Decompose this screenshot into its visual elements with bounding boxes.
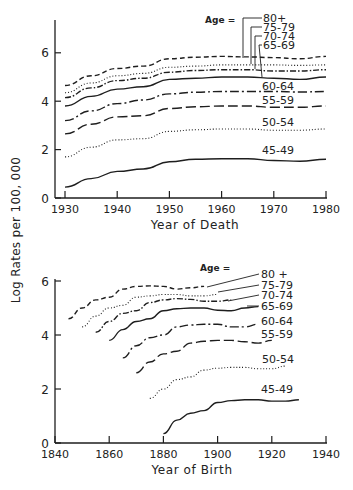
legend-title: Age = (205, 15, 235, 25)
y-tick-label: 4 (41, 95, 49, 109)
legend-title: Age = (200, 263, 230, 273)
x-tick-label: 1970 (260, 203, 288, 216)
y-tick-label: 4 (41, 329, 49, 343)
leader-line (259, 45, 262, 77)
x-axis-label: Year of Death (150, 218, 240, 232)
series-label: 60-64 (261, 315, 293, 328)
series-label: 45-49 (262, 144, 294, 157)
leader-line (218, 285, 259, 292)
series-label: 60-64 (262, 80, 294, 93)
series-label: 55-59 (261, 328, 293, 341)
series-line-45-49 (65, 159, 326, 187)
x-tick-label: 1880 (149, 448, 177, 461)
series-label: 50-54 (262, 353, 294, 366)
figure: 0246193019401950196019701980Year of Deat… (0, 0, 353, 490)
x-tick-label: 1930 (51, 203, 79, 216)
y-tick-label: 6 (41, 275, 49, 289)
series-label: 55-59 (262, 94, 294, 107)
y-tick-label: 6 (41, 46, 49, 60)
series-label: 65-69 (261, 300, 293, 313)
leader-line (243, 18, 262, 58)
x-tick-label: 1840 (41, 448, 69, 461)
x-tick-label: 1950 (155, 203, 183, 216)
leader-line (207, 274, 259, 287)
x-tick-label: 1960 (208, 203, 236, 216)
series-label: 45-49 (261, 383, 293, 396)
series-line-45-49 (163, 400, 299, 434)
x-tick-label: 1940 (312, 448, 340, 461)
series-line-80 (69, 286, 205, 319)
x-tick-label: 1940 (103, 203, 131, 216)
series-label: 65-69 (263, 39, 295, 52)
x-tick-label: 1920 (258, 448, 286, 461)
leader-line (228, 295, 259, 301)
series-label: 50-54 (262, 116, 294, 129)
x-tick-label: 1900 (204, 448, 232, 461)
series-line-75-79 (82, 295, 218, 327)
chart-year-of-death: 0246193019401950196019701980Year of Deat… (41, 12, 340, 232)
x-tick-label: 1860 (95, 448, 123, 461)
x-axis-label: Year of Birth (150, 463, 232, 477)
series-line-70-74 (96, 299, 232, 333)
y-tick-label: 2 (41, 383, 49, 397)
y-tick-label: 2 (41, 143, 49, 157)
chart-year-of-birth: 0246184018601880190019201940Year of Birt… (41, 263, 340, 477)
x-tick-label: 1980 (312, 203, 340, 216)
y-tick-label: 0 (41, 192, 49, 206)
